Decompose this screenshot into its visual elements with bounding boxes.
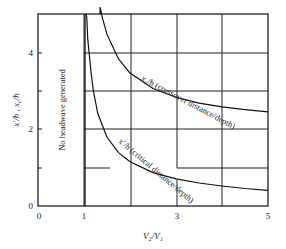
y-tick-0: 0 — [29, 201, 34, 211]
no-headwave-annotation: No headwave generated — [57, 68, 67, 150]
x-axis-label: V₂/V₁ — [143, 231, 163, 241]
y-tick-4: 4 — [29, 48, 34, 58]
chart: 4 2 0 0 1 3 5 V₂/V₁ x′/h , xc/h No headw… — [0, 0, 286, 249]
critical-label-start: x′/h (critical distance/depth) — [117, 136, 197, 205]
x-tick-0: 0 — [37, 211, 42, 221]
y-axis-label: x′/h , xc/h — [11, 93, 22, 128]
plot-frame — [38, 14, 268, 206]
crossover-label: xc/h (crossover distance/depth) — [139, 72, 238, 131]
x-tick-1: 1 — [82, 211, 87, 221]
x-tick-3: 3 — [175, 211, 180, 221]
x-tick-5: 5 — [266, 211, 271, 221]
y-tick-2: 2 — [29, 124, 34, 134]
grid — [84, 14, 268, 206]
